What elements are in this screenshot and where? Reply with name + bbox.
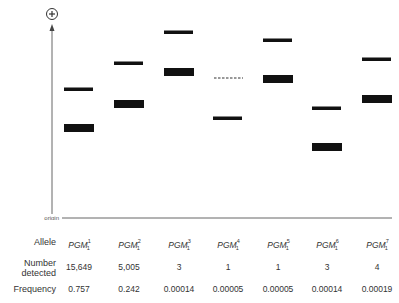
thin-band bbox=[213, 117, 242, 121]
thin-band bbox=[114, 62, 143, 66]
frequency-cell: 0.757 bbox=[54, 284, 104, 294]
row-label-number-line1: Number bbox=[2, 258, 56, 268]
allele-subscript: 1 bbox=[286, 245, 289, 251]
number-detected-cell: 1 bbox=[253, 262, 303, 272]
allele-superscript: 1 bbox=[88, 238, 91, 244]
thin-band bbox=[312, 107, 341, 111]
allele-subscript: 1 bbox=[335, 245, 338, 251]
thin-band bbox=[64, 88, 93, 92]
frequency-cell: 0.00019 bbox=[352, 284, 399, 294]
allele-cell: PGM31 bbox=[154, 236, 204, 253]
allele-cell: PGM61 bbox=[302, 236, 352, 253]
allele-cell: PGM71 bbox=[352, 236, 399, 253]
allele-subscript: 1 bbox=[87, 245, 90, 251]
thin-band bbox=[362, 58, 391, 62]
allele-subscript: 1 bbox=[385, 245, 388, 251]
lane-1 bbox=[64, 88, 94, 133]
thick-band bbox=[263, 75, 293, 83]
frequency-cell: 0.00005 bbox=[253, 284, 303, 294]
allele-superscript: 7 bbox=[386, 238, 389, 244]
thick-band bbox=[312, 143, 342, 151]
number-detected-cell: 4 bbox=[352, 262, 399, 272]
origin-label: origin bbox=[44, 215, 59, 220]
number-detected-cell: 15,649 bbox=[54, 262, 104, 272]
allele-cell: PGM41 bbox=[203, 236, 253, 253]
allele-superscript: 6 bbox=[336, 238, 339, 244]
allele-cell: PGM21 bbox=[104, 236, 154, 253]
row-label-allele: Allele bbox=[2, 237, 56, 247]
lane-6 bbox=[312, 107, 342, 152]
frequency-cell: 0.00014 bbox=[154, 284, 204, 294]
number-detected-cell: 5,005 bbox=[104, 262, 154, 272]
migration-axis-arrow bbox=[50, 24, 55, 214]
lane-3 bbox=[164, 31, 194, 77]
frequency-cell: 0.00014 bbox=[302, 284, 352, 294]
allele-superscript: 5 bbox=[287, 238, 290, 244]
allele-cell: PGM51 bbox=[253, 236, 303, 253]
thin-band bbox=[164, 31, 193, 35]
electrophoresis-diagram: origin bbox=[0, 0, 399, 220]
row-label-number-detected: Number detected bbox=[2, 258, 56, 278]
allele-subscript: 1 bbox=[137, 245, 140, 251]
number-detected-cell: 3 bbox=[302, 262, 352, 272]
allele-superscript: 2 bbox=[138, 238, 141, 244]
thick-band bbox=[164, 68, 194, 76]
allele-subscript: 1 bbox=[236, 245, 239, 251]
thick-band bbox=[114, 100, 144, 108]
allele-superscript: 3 bbox=[188, 238, 191, 244]
number-detected-cell: 3 bbox=[154, 262, 204, 272]
row-label-frequency: Frequency bbox=[2, 284, 56, 294]
allele-superscript: 4 bbox=[237, 238, 240, 244]
row-label-number-line2: detected bbox=[2, 268, 56, 278]
allele-subscript: 1 bbox=[187, 245, 190, 251]
allele-cell: PGM11 bbox=[54, 236, 104, 253]
lane-2 bbox=[114, 62, 144, 109]
bands bbox=[64, 31, 392, 152]
frequency-cell: 0.00005 bbox=[203, 284, 253, 294]
lane-4 bbox=[213, 78, 243, 120]
thin-band bbox=[263, 39, 292, 43]
frequency-cell: 0.242 bbox=[104, 284, 154, 294]
lane-5 bbox=[263, 39, 293, 84]
thick-band bbox=[362, 95, 392, 103]
anode-plus-icon bbox=[47, 9, 58, 20]
lane-7 bbox=[362, 58, 392, 104]
number-detected-cell: 1 bbox=[203, 262, 253, 272]
thick-band bbox=[64, 124, 94, 132]
